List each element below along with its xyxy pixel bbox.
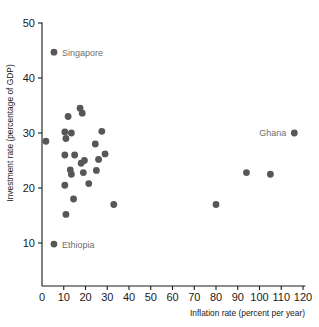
false: data-point bbox=[81, 157, 88, 164]
false: data-point bbox=[61, 152, 68, 159]
false: data-point bbox=[85, 180, 92, 187]
false: data-point bbox=[51, 49, 58, 56]
false: data-point bbox=[102, 151, 109, 158]
y-tick-label: 10 bbox=[23, 237, 35, 249]
x-tick-label: 100 bbox=[250, 291, 268, 303]
data-point-label: Ghana bbox=[259, 128, 286, 138]
x-axis-title: Inflation rate (percent per year) bbox=[190, 308, 305, 318]
y-axis-title: Investment rate (percentage of GDP) bbox=[5, 64, 15, 202]
false: data-point bbox=[70, 196, 77, 203]
false: data-point bbox=[80, 169, 87, 176]
x-tick-label: 110 bbox=[272, 291, 290, 303]
false: data-point bbox=[63, 211, 70, 218]
x-tick-label: 20 bbox=[79, 291, 91, 303]
y-tick-label: 20 bbox=[23, 182, 35, 194]
x-tick-label: 50 bbox=[145, 291, 157, 303]
x-tick-label: 30 bbox=[101, 291, 113, 303]
false: data-point bbox=[61, 182, 68, 189]
false: data-point bbox=[68, 171, 75, 178]
x-tick-label: 90 bbox=[232, 291, 244, 303]
data-point-label: Ethiopia bbox=[62, 240, 95, 250]
false: data-point bbox=[43, 138, 50, 145]
x-tick-label: 0 bbox=[39, 291, 45, 303]
false: data-point bbox=[61, 129, 68, 136]
x-tick-label: 70 bbox=[188, 291, 200, 303]
false: data-point bbox=[267, 171, 274, 178]
false: data-point bbox=[291, 130, 298, 137]
false: data-point bbox=[213, 201, 220, 208]
false: data-point bbox=[95, 156, 102, 163]
false: data-point bbox=[65, 113, 72, 120]
y-tick-label: 30 bbox=[23, 127, 35, 139]
x-tick-label: 60 bbox=[166, 291, 178, 303]
x-tick-label: 120 bbox=[294, 291, 312, 303]
scatter-chart: 10203040500102030405060708090100110120In… bbox=[0, 0, 319, 327]
data-point-label: Singapore bbox=[62, 48, 103, 58]
y-tick-label: 50 bbox=[23, 17, 35, 29]
false: data-point bbox=[93, 167, 100, 174]
false: data-point bbox=[110, 201, 117, 208]
y-tick-label: 40 bbox=[23, 72, 35, 84]
x-tick-label: 40 bbox=[123, 291, 135, 303]
false: data-point bbox=[98, 128, 105, 135]
plot-area: 10203040500102030405060708090100110120In… bbox=[0, 0, 319, 327]
false: data-point bbox=[51, 241, 58, 248]
false: data-point bbox=[71, 152, 78, 159]
false: data-point bbox=[79, 110, 86, 117]
false: data-point bbox=[63, 135, 70, 142]
x-tick-label: 80 bbox=[210, 291, 222, 303]
false: data-point bbox=[243, 169, 250, 176]
false: data-point bbox=[68, 130, 75, 137]
false: data-point bbox=[92, 141, 99, 148]
x-tick-label: 10 bbox=[58, 291, 70, 303]
